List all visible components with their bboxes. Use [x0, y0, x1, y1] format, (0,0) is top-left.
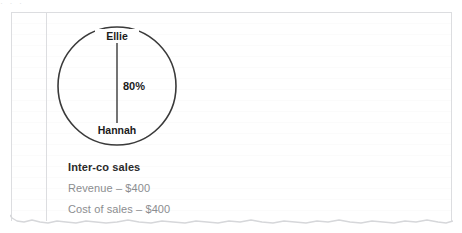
- node-label-bottom: Hannah: [98, 124, 137, 136]
- ownership-circle-diagram: Ellie Hannah 80%: [57, 19, 189, 153]
- torn-paper-edge: [10, 214, 453, 226]
- card-content: Ellie Hannah 80% Inter-co sales Revenue …: [57, 13, 451, 221]
- caption-line-revenue: Revenue – $400: [68, 182, 398, 194]
- gutter-divider: [46, 13, 47, 221]
- diagram-card: Ellie Hannah 80% Inter-co sales Revenue …: [11, 12, 452, 221]
- caption-block: Inter-co sales Revenue – $400 Cost of sa…: [68, 161, 398, 221]
- clipped-text-fragment: · · ·: [0, 0, 462, 7]
- node-label-top: Ellie: [106, 30, 128, 42]
- ownership-percentage-label: 80%: [123, 80, 145, 92]
- caption-title: Inter-co sales: [68, 161, 398, 173]
- diagram-page: · · · Ellie Hannah 80%: [0, 0, 462, 233]
